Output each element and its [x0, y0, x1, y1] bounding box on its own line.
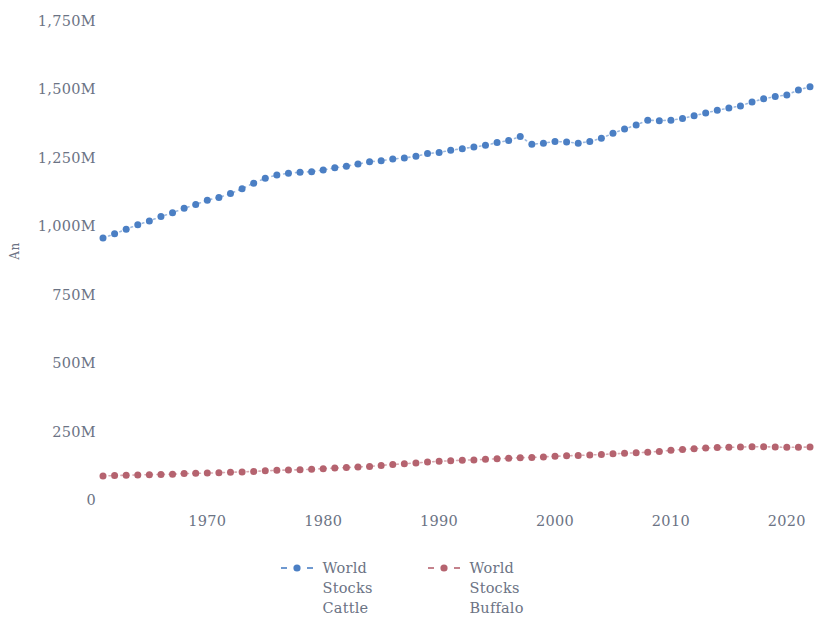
legend-label: World Stocks Cattle	[323, 558, 399, 618]
x-tick-label: 1970	[167, 514, 247, 529]
x-tick-label: 1980	[283, 514, 363, 529]
x-axis-tick-labels: 197019801990200020102020	[0, 0, 825, 631]
legend-item-buffalo[interactable]: World Stocks Buffalo	[427, 558, 546, 618]
legend-marker-icon	[280, 563, 314, 573]
chart-legend: World Stocks CattleWorld Stocks Buffalo	[0, 558, 825, 618]
x-tick-label: 2000	[515, 514, 595, 529]
legend-label: World Stocks Buffalo	[470, 558, 546, 618]
legend-item-cattle[interactable]: World Stocks Cattle	[280, 558, 399, 618]
legend-marker-icon	[427, 563, 461, 573]
x-tick-label: 1990	[399, 514, 479, 529]
x-tick-label: 2010	[631, 514, 711, 529]
chart-container: An 0250M500M750M1,000M1,250M1,500M1,750M…	[0, 0, 825, 631]
x-tick-label: 2020	[747, 514, 825, 529]
